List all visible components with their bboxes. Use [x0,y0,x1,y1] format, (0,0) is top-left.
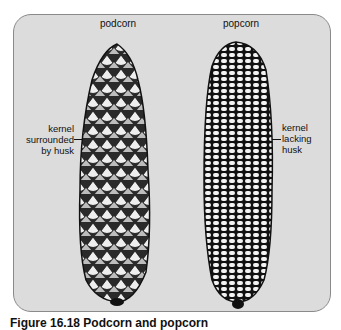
popcorn-leader-line [272,139,281,140]
label-line: by husk [18,145,74,156]
podcorn-title: podcorn [100,18,136,29]
figure-caption: Figure 16.18 Podcorn and popcorn [10,316,208,330]
label-line: husk [282,144,312,155]
popcorn-title: popcorn [223,18,259,29]
podcorn-label: kernel surrounded by husk [18,123,74,156]
label-line: kernel [282,122,312,133]
popcorn-label: kernel lacking husk [282,122,312,155]
podcorn-leader-line [74,139,82,140]
label-line: surrounded [18,134,74,145]
label-line: kernel [18,123,74,134]
label-line: lacking [282,133,312,144]
popcorn-illustration [196,40,286,320]
podcorn-illustration [72,40,162,310]
